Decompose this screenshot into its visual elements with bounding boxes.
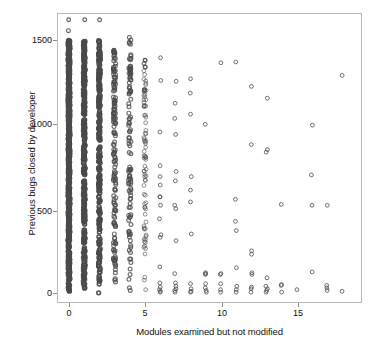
ytick-mark-0 [53,293,57,294]
xtick-mark-15 [298,303,299,307]
xtick-label-15: 15 [283,309,313,318]
scatter-plot-figure: 1500 1000 500 0 0 5 10 15 Modules examin… [0,0,379,350]
ytick-mark-1000 [53,124,57,125]
xtick-label-0: 0 [54,309,84,318]
xtick-mark-5 [145,303,146,307]
ytick-label-0: 0 [22,289,52,298]
xtick-mark-0 [69,303,70,307]
yaxis-title: Previous bugs closed by developer [26,49,37,279]
ytick-mark-500 [53,211,57,212]
scatter-points-layer [0,0,379,350]
xaxis-title: Modules examined but not modified [57,326,362,337]
xtick-label-10: 10 [207,309,237,318]
xtick-label-5: 5 [130,309,160,318]
xtick-mark-10 [222,303,223,307]
ytick-label-1500: 1500 [22,36,52,45]
ytick-mark-1500 [53,40,57,41]
